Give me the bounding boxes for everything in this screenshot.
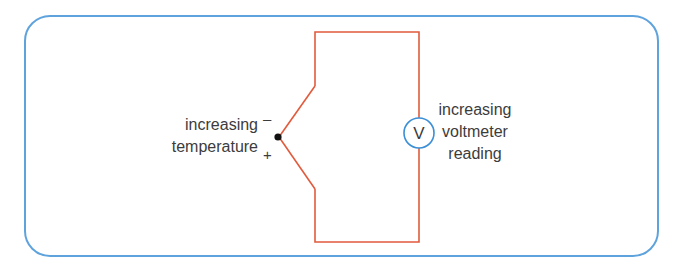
wire-bottom [315, 148, 419, 242]
wire-upper-diagonal [279, 86, 315, 137]
left-label-line-1: increasing [172, 114, 258, 136]
junction-dot [274, 133, 281, 140]
right-label-line-1: increasing [436, 99, 514, 121]
right-label-line-2: voltmeter [436, 121, 514, 143]
left-label: increasing temperature [172, 114, 258, 158]
wire-lower-diagonal [279, 137, 315, 189]
right-label: increasing voltmeter reading [436, 99, 514, 165]
right-label-line-3: reading [436, 143, 514, 165]
thermocouple-circuit: V [0, 0, 682, 269]
left-label-line-2: temperature [172, 136, 258, 158]
plus-sign: + [263, 146, 272, 163]
wire-top [315, 32, 419, 118]
voltmeter-symbol: V [413, 124, 425, 143]
minus-sign: – [263, 110, 271, 127]
